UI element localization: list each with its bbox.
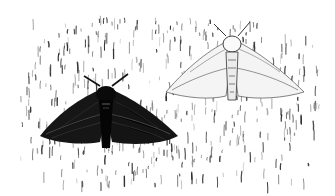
bark-texture	[21, 16, 320, 193]
dark-moth	[40, 74, 178, 148]
moth-illustration: Black-and-white illustration of two pepp…	[0, 0, 335, 196]
light-moth	[166, 22, 304, 100]
